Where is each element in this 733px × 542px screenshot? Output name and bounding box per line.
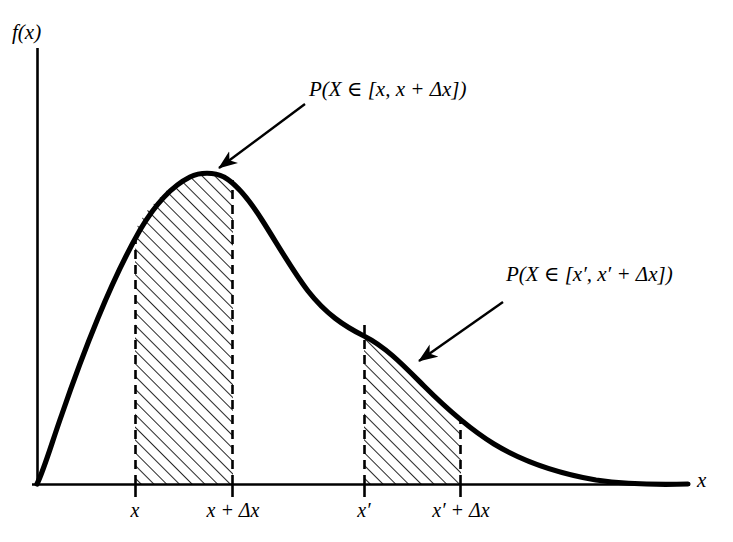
tick-label-xprime-plus-dx: x′ + Δx [432,500,489,520]
callout-label-first-interval: P(X ∈ [x, x + Δx]) [309,79,467,100]
y-axis-label: f(x) [12,22,41,43]
tick-label-x-plus-dx: x + Δx [207,500,260,520]
tick-label-x: x [131,500,140,520]
callout-label-second-interval: P(X ∈ [x′, x′ + Δx]) [506,264,673,285]
tick-label-xprime: x′ [357,500,370,520]
callout-arrow-2 [419,302,503,361]
callout-arrow-1 [219,104,305,168]
x-axis-label: x [697,470,706,491]
density-figure: f(x) x P(X ∈ [x, x + Δx]) P(X ∈ [x′, x′ … [0,0,733,542]
